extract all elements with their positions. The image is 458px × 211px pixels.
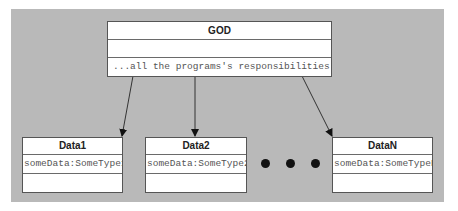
ellipsis-dot-1 bbox=[261, 159, 270, 168]
data1-operations bbox=[23, 174, 122, 193]
data1-class-box: Data1 someData:SomeType1 bbox=[22, 137, 123, 193]
datan-operations bbox=[333, 174, 432, 193]
data1-class-name: Data1 bbox=[23, 138, 122, 155]
datan-class-name: DataN bbox=[333, 138, 432, 155]
god-class-operations: ...all the programs's responsibilities..… bbox=[108, 58, 331, 77]
ellipsis-dot-2 bbox=[286, 159, 295, 168]
god-class-name: GOD bbox=[108, 22, 331, 40]
datan-attribute: someData:SomeTypeN bbox=[333, 155, 432, 174]
data2-attribute: someData:SomeType2 bbox=[146, 155, 246, 174]
data2-class-name: Data2 bbox=[146, 138, 246, 155]
ellipsis-dot-3 bbox=[311, 159, 320, 168]
data2-operations bbox=[146, 174, 246, 193]
data2-class-box: Data2 someData:SomeType2 bbox=[145, 137, 247, 193]
data1-attribute: someData:SomeType1 bbox=[23, 155, 122, 174]
god-class-box: GOD ...all the programs's responsibiliti… bbox=[107, 21, 332, 77]
datan-class-box: DataN someData:SomeTypeN bbox=[332, 137, 433, 193]
arrow-god-to-data1 bbox=[122, 76, 133, 136]
god-class-attributes bbox=[108, 40, 331, 58]
arrow-god-to-datan bbox=[302, 76, 332, 136]
